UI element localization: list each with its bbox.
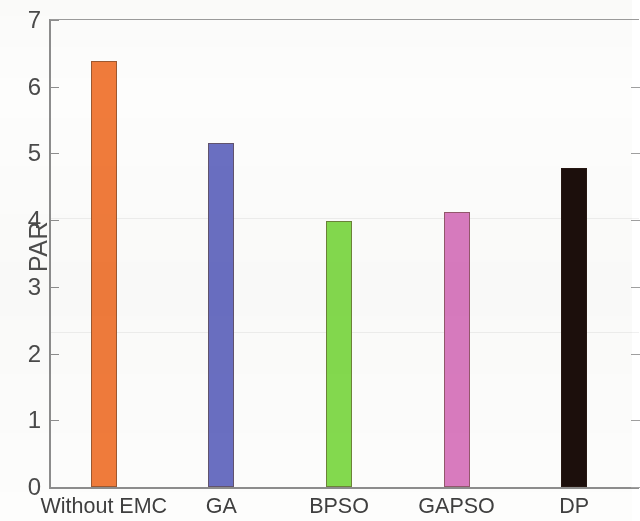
y-axis-tick [50, 220, 59, 221]
y-axis-tick-label: 5 [28, 141, 41, 165]
y-axis-tick-right [631, 220, 640, 221]
y-axis-tick-label: 3 [28, 275, 41, 299]
y-axis-tick-label: 6 [28, 75, 41, 99]
x-axis-tick-label: Without EMC [40, 496, 167, 518]
y-axis-tick-right [631, 420, 640, 421]
y-axis-tick-label: 4 [28, 208, 41, 232]
y-axis-tick [50, 354, 59, 355]
y-axis-tick-label: 0 [28, 475, 41, 499]
bar-ga [208, 143, 234, 487]
bar-without-emc [91, 61, 117, 487]
y-axis-tick-right [631, 87, 640, 88]
x-axis-tick-label: GAPSO [418, 496, 494, 518]
y-axis-tick-right [631, 287, 640, 288]
y-axis-tick-label: 1 [28, 408, 41, 432]
bar-dp [561, 168, 587, 487]
bar-bpso [326, 221, 352, 487]
y-axis-tick-right [631, 153, 640, 154]
y-axis-tick-right [631, 354, 640, 355]
x-axis-tick-label: GA [206, 496, 237, 518]
y-axis-tick [50, 420, 59, 421]
y-axis-tick-right [631, 487, 640, 488]
y-axis-tick-label: 2 [28, 342, 41, 366]
y-axis-tick [50, 87, 59, 88]
scan-artifact [51, 218, 639, 219]
x-axis-tick-label: BPSO [309, 496, 369, 518]
bar-gapso [444, 212, 470, 487]
y-axis-tick-label: 7 [28, 8, 41, 32]
y-axis-tick [50, 153, 59, 154]
x-axis-tick-label: DP [559, 496, 589, 518]
plot-area: 01234567Without EMCGABPSOGAPSODP [49, 19, 639, 489]
y-axis-tick [50, 287, 59, 288]
y-axis-tick [50, 20, 59, 21]
y-axis-tick [50, 487, 59, 488]
